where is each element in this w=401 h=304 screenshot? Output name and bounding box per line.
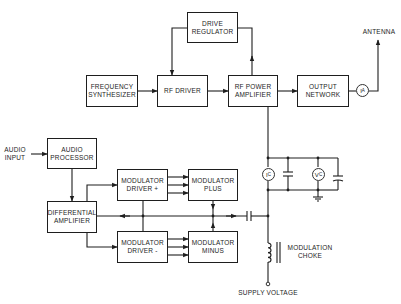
supply-terminal: [266, 282, 270, 286]
choke-coil: [268, 243, 271, 262]
modulator-driver-minus-block: MODULATOR DRIVER -: [117, 231, 168, 263]
collector-voltage-meter: VC: [312, 168, 325, 181]
rf-driver-block: RF DRIVER: [157, 75, 208, 107]
drive-regulator-block: DRIVE REGULATOR: [187, 12, 238, 43]
rf-power-amplifier-block: RF POWER AMPLIFIER: [228, 75, 278, 107]
antenna-current-meter: IA: [356, 84, 369, 97]
modulator-driver-plus-block: MODULATOR DRIVER +: [117, 169, 168, 201]
audio-input-label: AUDIO INPUT: [0, 146, 30, 162]
modulator-minus-block: MODULATOR MINUS: [188, 231, 238, 263]
wire-to-antenna: [369, 40, 378, 91]
collector-current-meter: IC: [262, 168, 275, 181]
modulation-choke-label: MODULATION CHOKE: [285, 244, 335, 260]
wire-pa-to-regulator: [238, 28, 252, 75]
output-network-block: OUTPUT NETWORK: [297, 75, 349, 107]
frequency-synthesizer-block: FREQUENCY SYNTHESIZER: [86, 75, 138, 107]
antenna-label: ANTENNA: [354, 28, 401, 36]
wire-regulator-to-rf-driver: [172, 28, 187, 75]
audio-processor-block: AUDIO PROCESSOR: [47, 138, 97, 169]
modulator-plus-block: MODULATOR PLUS: [188, 169, 238, 201]
differential-amplifier-block: DIFFERENTIAL AMPLIFIER: [47, 201, 97, 233]
supply-voltage-label: SUPPLY VOLTAGE: [228, 289, 308, 297]
